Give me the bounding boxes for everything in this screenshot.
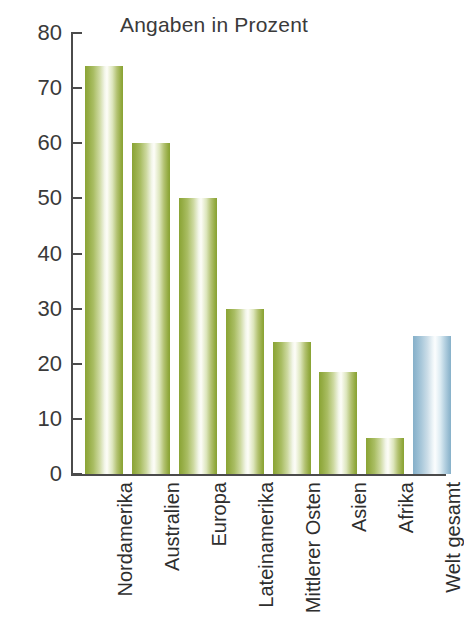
y-axis-tick-label: 10 bbox=[6, 408, 62, 430]
x-axis-category-label: Nordamerika bbox=[115, 482, 135, 642]
x-axis-category-label: Afrika bbox=[396, 482, 416, 642]
x-axis-label-text: Asien bbox=[349, 482, 369, 642]
bar bbox=[226, 309, 264, 474]
y-axis-tick-label: 20 bbox=[6, 353, 62, 375]
bar bbox=[179, 198, 217, 474]
x-axis-label-text: Mittlerer Osten bbox=[303, 482, 323, 642]
x-axis-category-label: Europa bbox=[209, 482, 229, 642]
plot-area bbox=[71, 33, 446, 476]
x-axis-label-text: Lateinamerika bbox=[256, 482, 276, 642]
y-axis-tick-label: 60 bbox=[6, 132, 62, 154]
bar bbox=[366, 438, 404, 474]
y-axis-tick-label: 30 bbox=[6, 298, 62, 320]
x-axis-label-text: Europa bbox=[209, 482, 229, 642]
x-axis-category-label: Lateinamerika bbox=[256, 482, 276, 642]
x-axis-label-text: Afrika bbox=[396, 482, 416, 642]
x-axis-category-labels: NordamerikaAustralienEuropaLateinamerika… bbox=[71, 476, 446, 642]
x-axis-category-label: Mittlerer Osten bbox=[303, 482, 323, 642]
bar bbox=[273, 342, 311, 474]
y-axis-tick-label: 40 bbox=[6, 243, 62, 265]
y-axis-tick-label: 0 bbox=[6, 463, 62, 485]
bar bbox=[85, 66, 123, 474]
y-axis-tick-label: 50 bbox=[6, 187, 62, 209]
y-axis-tick-labels: 01020304050607080 bbox=[0, 33, 62, 476]
bar bbox=[132, 143, 170, 474]
x-axis-label-text: Nordamerika bbox=[115, 482, 135, 642]
x-axis-category-label: Asien bbox=[349, 482, 369, 642]
bar-series bbox=[71, 33, 446, 474]
x-axis-category-label: Australien bbox=[162, 482, 182, 642]
y-axis-tick-label: 80 bbox=[6, 22, 62, 44]
y-axis-tick-label: 70 bbox=[6, 77, 62, 99]
x-axis-category-label: Welt gesamt bbox=[443, 482, 463, 642]
x-axis-label-text: Welt gesamt bbox=[443, 482, 463, 642]
bar bbox=[413, 336, 451, 474]
x-axis-label-text: Australien bbox=[162, 482, 182, 642]
bar bbox=[319, 372, 357, 474]
